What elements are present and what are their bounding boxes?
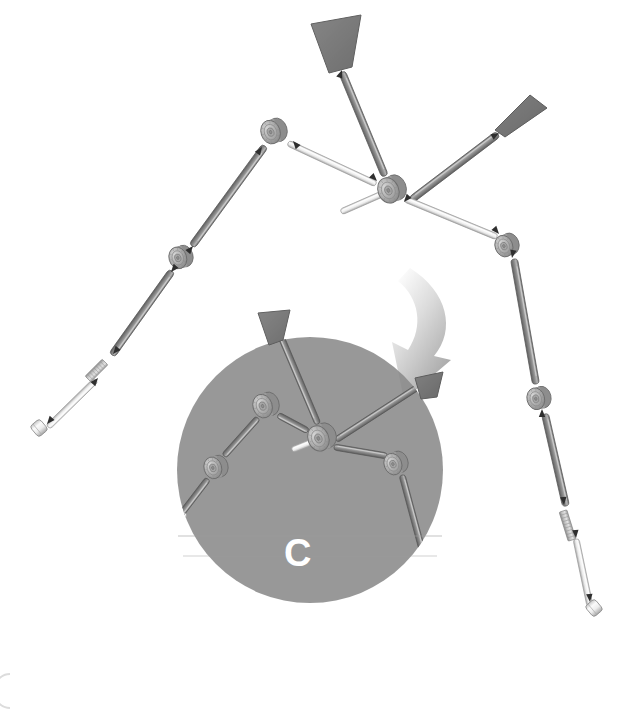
- figure-canvas: C: [0, 0, 623, 710]
- thread-detail-left: [165, 510, 180, 526]
- thread-detail-left-ridge: [174, 513, 178, 517]
- end-cap-left: [30, 419, 49, 438]
- hub-upper-left: [258, 116, 291, 147]
- thread-detail-lower-ridge: [433, 628, 439, 630]
- rod-detail-lower-1: [430, 582, 446, 629]
- thread-detail-left-ridge: [170, 517, 174, 521]
- assembly-illustration: [0, 0, 623, 710]
- thread-detail-lower-ridge: [430, 619, 436, 621]
- thread-detail-lower-body: [429, 616, 441, 635]
- paddle-top-shade: [311, 15, 361, 73]
- rod-right-down-highlight: [516, 266, 537, 376]
- hub-detail-lower: [414, 556, 443, 583]
- rod-hub-link-upper-highlight: [294, 144, 372, 181]
- thread-right-branch: [559, 510, 576, 541]
- hub-detail-lower-tick: [428, 563, 430, 565]
- page-corner-arc: [0, 674, 10, 708]
- rod-hub-link-right-highlight: [411, 200, 492, 234]
- hub-detail-lower-tick: [417, 572, 419, 573]
- hub-detail-lower-tick: [424, 579, 425, 582]
- hub-detail-lower-tick: [420, 562, 421, 565]
- rod-detail-lower-tip-highlight: [438, 623, 448, 672]
- thread-right-branch-body: [559, 510, 576, 541]
- hub-detail-lower-tick: [431, 574, 433, 576]
- end-cap-detail-lower-body: [439, 670, 455, 686]
- hub-detail-lower-band: [422, 558, 434, 581]
- rod-left-lower-highlight: [116, 277, 170, 352]
- rod-left-upper-highlight: [197, 153, 262, 242]
- end-cap-detail-left: [152, 548, 168, 564]
- thread-left-branch: [85, 359, 108, 382]
- rod-right-down: [511, 258, 540, 384]
- hub-detail-lower-groove-outer: [417, 562, 432, 579]
- hub-detail-lower-tick: [431, 569, 433, 570]
- thread-detail-lower-ridge: [433, 630, 439, 632]
- rod-left-tip-highlight: [52, 383, 95, 425]
- hub-detail-lower-rim: [420, 556, 442, 582]
- rod-left-tip: [46, 378, 98, 429]
- rod-upper-right-flag: [409, 131, 500, 203]
- rod-right-tail-highlight: [547, 419, 567, 500]
- hub-right-lower: [525, 384, 554, 411]
- thread-detail-lower: [429, 616, 441, 635]
- hub-detail-lower-groove-inner: [421, 566, 429, 575]
- rod-upper-right-flag-highlight: [415, 136, 492, 195]
- thread-detail-left-ridge: [168, 520, 172, 524]
- end-cap-detail-lower: [439, 670, 455, 686]
- end-cap-detail-left-seam: [155, 553, 163, 562]
- thread-detail-left-body: [165, 510, 180, 526]
- hub-detail-lower-bore: [423, 569, 426, 573]
- hub-detail-lower-tick: [417, 566, 419, 568]
- rod-left-upper: [189, 144, 268, 248]
- hub-detail-lower-tick: [419, 577, 421, 579]
- hub-detail-lower-tick: [428, 577, 429, 580]
- hub-detail-lower-tick: [424, 560, 425, 563]
- rod-detail-left-tip: [160, 512, 187, 554]
- end-cap-detail-lower-seam: [442, 675, 450, 684]
- thread-detail-lower-ridge: [431, 622, 437, 624]
- hub-detail-lower-face: [414, 558, 436, 584]
- end-cap-left-body: [30, 419, 49, 438]
- detail-callout-label: C: [284, 534, 311, 572]
- rod-top-flag-highlight: [346, 77, 385, 169]
- assembly-arrow-12: [539, 409, 545, 417]
- rod-stub-center-highlight: [343, 193, 379, 210]
- rod-left-lower: [109, 269, 175, 357]
- rod-detail-lower-tip: [434, 619, 450, 675]
- end-cap-detail-left-body: [152, 548, 168, 564]
- rod-detail-lower-1-highlight: [434, 585, 444, 626]
- paddle-upper-right-shade: [495, 95, 547, 137]
- rod-detail-left-tip-highlight: [165, 516, 185, 551]
- thread-detail-lower-ridge: [432, 625, 438, 627]
- thread-detail-left-ridge: [172, 515, 176, 519]
